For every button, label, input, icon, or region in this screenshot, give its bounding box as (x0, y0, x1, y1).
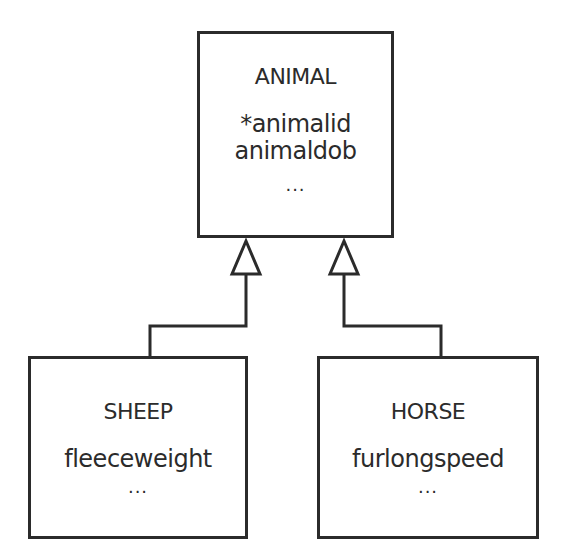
entity-name: SHEEP (31, 399, 245, 424)
more-attributes-ellipsis: ... (31, 477, 245, 497)
connector-sheep-animal (150, 241, 260, 357)
entity-name: ANIMAL (200, 64, 391, 89)
connector-horse-animal (330, 241, 441, 357)
entity-name: HORSE (320, 399, 536, 424)
attribute-list: *animalid animaldob (200, 111, 391, 165)
attribute-animaldob: animaldob (200, 138, 391, 165)
entity-sheep[interactable]: SHEEP fleeceweight ... (28, 356, 248, 539)
attribute-animalid: *animalid (200, 111, 391, 138)
more-attributes-ellipsis: ... (200, 175, 391, 195)
generalization-diagram: ANIMAL *animalid animaldob ... SHEEP fle… (0, 0, 563, 559)
entity-horse[interactable]: HORSE furlongspeed ... (317, 356, 539, 539)
more-attributes-ellipsis: ... (320, 477, 536, 497)
entity-animal[interactable]: ANIMAL *animalid animaldob ... (197, 31, 394, 238)
attribute-fleeceweight: fleeceweight (31, 446, 245, 473)
inheritance-arrow-icon (232, 241, 260, 274)
attribute-list: furlongspeed (320, 446, 536, 473)
attribute-list: fleeceweight (31, 446, 245, 473)
inheritance-arrow-icon (330, 241, 358, 274)
attribute-furlongspeed: furlongspeed (320, 446, 536, 473)
